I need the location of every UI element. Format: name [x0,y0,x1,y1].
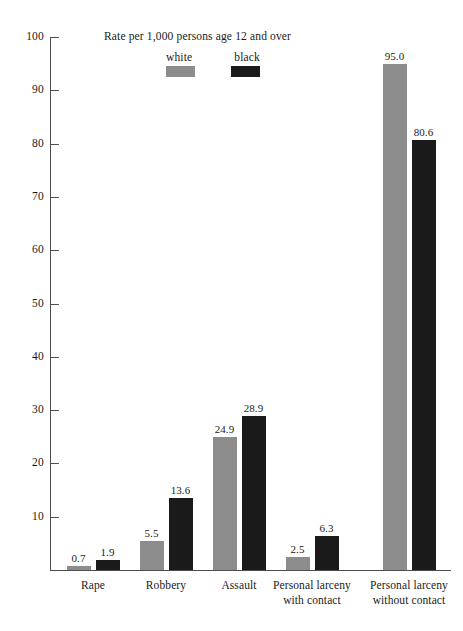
x-axis-label-3: Personal larcenywith contact [261,578,363,607]
bar-value-label: 13.6 [171,484,191,496]
bar-chart: Rate per 1,000 persons age 12 and over w… [0,0,463,631]
x-axis-label-1: Robbery [126,578,206,593]
x-axis-label-line: Rape [53,578,133,593]
bar-white-2: 24.9 [213,437,237,570]
y-axis-tick-label: 80 [2,138,44,149]
y-axis-tick-label: 100 [2,31,44,42]
x-axis-label-line: Personal larceny [261,578,363,593]
bar-value-label: 5.5 [144,527,158,539]
x-axis-label-line: with contact [261,593,363,608]
x-axis-label-0: Rape [53,578,133,593]
x-axis-label-line: Robbery [126,578,206,593]
bar-black-3: 6.3 [315,536,339,570]
x-axis-label-line: Personal larceny [357,578,461,593]
y-axis-tick [51,570,59,571]
bar-black-0: 1.9 [96,560,120,570]
bar-white-1: 5.5 [140,541,164,570]
x-axis-label-4: Personal larcenywithout contact [357,578,461,607]
bar-value-label: 28.9 [244,402,264,414]
bar-white-0: 0.7 [67,566,91,570]
bar-white-3: 2.5 [286,557,310,570]
bar-black-2: 28.9 [242,416,266,570]
x-axis-label-line: without contact [357,593,461,608]
bar-value-label: 1.9 [100,546,114,558]
bar-black-1: 13.6 [169,498,193,570]
x-axis-line [50,570,451,571]
bar-value-label: 24.9 [215,423,235,435]
y-axis-tick-label: 40 [2,351,44,362]
bar-black-4: 80.6 [412,140,436,570]
bar-value-label: 95.0 [385,50,405,62]
bar-white-4: 95.0 [383,64,407,570]
bar-value-label: 80.6 [414,126,434,138]
y-axis-tick-label: 10 [2,511,44,522]
y-axis-tick-label: 50 [2,298,44,309]
plot-area: 0.75.524.92.595.01.913.628.96.380.6 [50,37,450,570]
y-axis-tick-label: 70 [2,191,44,202]
y-axis-tick-label: 60 [2,244,44,255]
bar-value-label: 6.3 [319,522,333,534]
bar-value-label: 0.7 [71,552,85,564]
y-axis-tick-label: 30 [2,404,44,415]
y-axis-tick-label: 20 [2,457,44,468]
y-axis-tick-label: 90 [2,84,44,95]
bar-value-label: 2.5 [290,543,304,555]
